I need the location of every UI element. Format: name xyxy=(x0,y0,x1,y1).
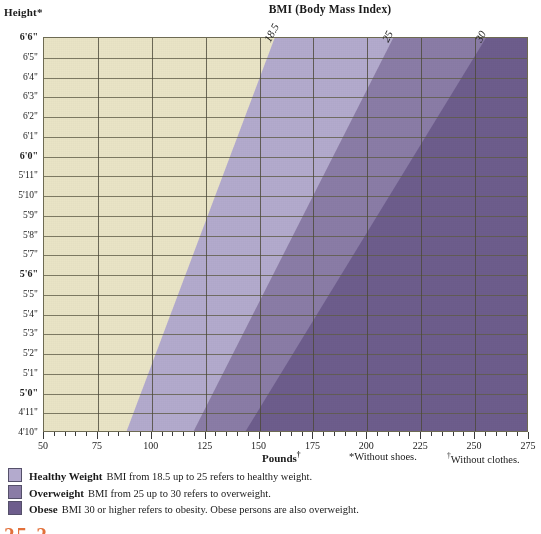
legend-item: ObeseBMI 30 or higher refers to obesity.… xyxy=(8,499,528,516)
x-tick-minor xyxy=(54,432,55,436)
gridline-vertical xyxy=(475,38,476,431)
x-tick-major xyxy=(366,432,367,439)
x-tick-minor xyxy=(183,432,184,436)
legend-swatch-icon xyxy=(8,501,22,515)
height-tick-60: 5'0" xyxy=(0,388,38,398)
legend-description: BMI from 18.5 up to 25 refers to healthy… xyxy=(106,471,312,482)
x-tick-minor xyxy=(162,432,163,436)
height-tick-63: 5'3" xyxy=(0,328,38,338)
plot-area xyxy=(43,37,528,432)
gridline-vertical xyxy=(367,38,368,431)
x-tick-minor xyxy=(172,432,173,436)
gridline-vertical xyxy=(260,38,261,431)
gridline-horizontal xyxy=(44,315,527,316)
gridline-horizontal xyxy=(44,216,527,217)
page-number: 25.2 xyxy=(4,523,49,534)
gridline-vertical xyxy=(421,38,422,431)
gridline-horizontal xyxy=(44,413,527,414)
x-tick-major xyxy=(43,432,44,439)
legend: Healthy WeightBMI from 18.5 up to 25 ref… xyxy=(8,466,528,516)
pounds-tick-100: 100 xyxy=(131,440,171,451)
height-tick-77: 6'5" xyxy=(0,52,38,62)
height-tick-72: 6'0" xyxy=(0,151,38,161)
height-tick-75: 6'3" xyxy=(0,91,38,101)
x-tick-minor xyxy=(75,432,76,436)
x-tick-minor xyxy=(506,432,507,436)
pounds-tick-200: 200 xyxy=(346,440,386,451)
height-tick-71: 5'11" xyxy=(0,170,38,180)
chart-title: BMI (Body Mass Index) xyxy=(269,3,392,15)
x-tick-minor xyxy=(334,432,335,436)
gridline-horizontal xyxy=(44,196,527,197)
gridline-horizontal xyxy=(44,137,527,138)
gridline-horizontal xyxy=(44,117,527,118)
legend-label: Overweight xyxy=(29,487,84,499)
x-tick-minor xyxy=(280,432,281,436)
height-tick-58: 4'10" xyxy=(0,427,38,437)
x-tick-minor xyxy=(118,432,119,436)
x-tick-major xyxy=(420,432,421,439)
height-tick-62: 5'2" xyxy=(0,348,38,358)
height-tick-66: 5'6" xyxy=(0,269,38,279)
x-tick-major xyxy=(474,432,475,439)
pounds-axis-title: Pounds† xyxy=(262,450,301,464)
height-tick-68: 5'8" xyxy=(0,230,38,240)
pounds-tick-125: 125 xyxy=(185,440,225,451)
legend-label: Obese xyxy=(29,503,58,515)
x-tick-minor xyxy=(140,432,141,436)
x-tick-minor xyxy=(226,432,227,436)
x-tick-minor xyxy=(431,432,432,436)
legend-item: Healthy WeightBMI from 18.5 up to 25 ref… xyxy=(8,466,528,483)
gridline-horizontal xyxy=(44,97,527,98)
gridline-horizontal xyxy=(44,78,527,79)
x-tick-minor xyxy=(86,432,87,436)
pounds-tick-275: 275 xyxy=(508,440,541,451)
height-tick-67: 5'7" xyxy=(0,249,38,259)
x-tick-minor xyxy=(291,432,292,436)
height-tick-74: 6'2" xyxy=(0,111,38,121)
x-tick-minor xyxy=(65,432,66,436)
legend-description: BMI 30 or higher refers to obesity. Obes… xyxy=(62,504,359,515)
x-tick-minor xyxy=(323,432,324,436)
x-tick-minor xyxy=(377,432,378,436)
x-tick-minor xyxy=(463,432,464,436)
gridline-horizontal xyxy=(44,255,527,256)
x-tick-minor xyxy=(194,432,195,436)
x-tick-minor xyxy=(442,432,443,436)
pounds-tick-50: 50 xyxy=(23,440,63,451)
pounds-tick-75: 75 xyxy=(77,440,117,451)
height-tick-78: 6'6" xyxy=(0,32,38,42)
x-tick-minor xyxy=(129,432,130,436)
x-tick-minor xyxy=(302,432,303,436)
gridline-horizontal xyxy=(44,374,527,375)
x-tick-minor xyxy=(496,432,497,436)
x-tick-major xyxy=(97,432,98,439)
x-tick-major xyxy=(312,432,313,439)
legend-label: Healthy Weight xyxy=(29,470,102,482)
x-tick-minor xyxy=(237,432,238,436)
x-tick-minor xyxy=(108,432,109,436)
legend-swatch-icon xyxy=(8,468,22,482)
gridline-vertical xyxy=(313,38,314,431)
x-tick-minor xyxy=(485,432,486,436)
x-tick-minor xyxy=(453,432,454,436)
gridline-horizontal xyxy=(44,58,527,59)
x-tick-major xyxy=(528,432,529,439)
x-tick-minor xyxy=(215,432,216,436)
footnote-shoes: *Without shoes. xyxy=(349,451,417,462)
pounds-tick-225: 225 xyxy=(400,440,440,451)
gridline-horizontal xyxy=(44,354,527,355)
gridline-horizontal xyxy=(44,394,527,395)
x-tick-minor xyxy=(356,432,357,436)
height-tick-64: 5'4" xyxy=(0,309,38,319)
gridline-horizontal xyxy=(44,176,527,177)
gridline-horizontal xyxy=(44,275,527,276)
bmi-chart-figure: Height* BMI (Body Mass Index) 18.52530 6… xyxy=(0,0,541,534)
gridline-horizontal xyxy=(44,334,527,335)
x-tick-minor xyxy=(517,432,518,436)
x-tick-major xyxy=(259,432,260,439)
x-tick-minor xyxy=(388,432,389,436)
legend-swatch-icon xyxy=(8,485,22,499)
height-tick-73: 6'1" xyxy=(0,131,38,141)
gridline-horizontal xyxy=(44,157,527,158)
